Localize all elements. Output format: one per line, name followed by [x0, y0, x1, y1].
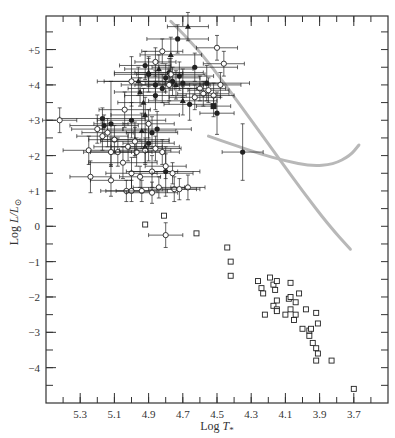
x-tick-label: 4.9 — [142, 408, 156, 420]
open-circle-marker — [221, 61, 226, 66]
open-circle-point — [152, 163, 193, 184]
filled-triangle-marker — [139, 128, 145, 133]
open-square-point — [274, 279, 279, 284]
open-square-marker — [143, 222, 148, 227]
open-circle-marker — [163, 164, 168, 169]
open-square-marker — [329, 358, 334, 363]
open-circle-point — [123, 110, 174, 138]
filled-triangle-marker — [156, 66, 162, 71]
open-circle-point — [203, 51, 244, 76]
open-square-marker — [273, 287, 278, 292]
y-tick-label: +1 — [28, 185, 40, 197]
open-square-marker — [300, 326, 305, 331]
open-square-point — [288, 280, 293, 285]
open-square-point — [283, 312, 288, 317]
open-square-point — [351, 386, 356, 391]
filled-triangle-marker — [168, 52, 174, 57]
filled-circle-point — [200, 92, 234, 134]
filled-circle-marker — [240, 149, 245, 154]
open-square-marker — [288, 307, 293, 312]
filled-circle-marker — [160, 86, 165, 91]
hr-diagram-chart: 5.35.14.94.74.54.34.13.93.7+5+4+3+2+10−1… — [0, 0, 395, 438]
open-square-marker — [161, 213, 166, 218]
open-circle-marker — [129, 79, 134, 84]
open-square-point — [297, 291, 302, 296]
open-circle-point — [120, 166, 161, 187]
open-square-marker — [315, 351, 320, 356]
filled-circle-marker — [143, 63, 148, 68]
open-circle-marker — [149, 190, 154, 195]
filled-triangle-marker — [137, 89, 143, 94]
open-square-marker — [307, 333, 312, 338]
open-square-marker — [315, 321, 320, 326]
open-square-point — [143, 222, 148, 227]
open-square-point — [228, 259, 233, 264]
filled-circle-point — [164, 88, 215, 120]
open-square-point — [291, 317, 296, 322]
filled-triangle-point — [167, 12, 208, 40]
open-square-point — [293, 300, 298, 305]
filled-circle-marker — [187, 102, 192, 107]
open-circle-marker — [108, 149, 113, 154]
x-tick-label: 5.3 — [73, 408, 87, 420]
x-tick-label: 4.3 — [244, 408, 258, 420]
open-circle-marker — [105, 130, 110, 135]
open-square-point — [315, 321, 320, 326]
open-square-marker — [293, 300, 298, 305]
filled-circle-point — [222, 124, 263, 181]
open-square-marker — [261, 291, 266, 296]
open-square-point — [300, 326, 305, 331]
filled-circle-marker — [214, 111, 219, 116]
x-tick-label: 4.7 — [176, 408, 190, 420]
open-circle-marker — [100, 134, 105, 139]
open-square-marker — [291, 317, 296, 322]
filled-triangle-marker — [135, 78, 141, 83]
open-square-point — [288, 307, 293, 312]
open-square-point — [329, 358, 334, 363]
filled-circle-point — [147, 25, 209, 53]
open-square-marker — [225, 245, 230, 250]
open-circle-marker — [170, 171, 175, 176]
open-circle-point — [77, 122, 128, 150]
open-circle-point — [63, 136, 114, 164]
open-circle-marker — [153, 146, 158, 151]
open-square-marker — [274, 279, 279, 284]
filled-triangle-marker — [146, 69, 152, 74]
x-axis-title: Log T* — [200, 419, 234, 435]
y-tick-label: −2 — [28, 291, 40, 303]
filled-triangle-marker — [180, 98, 186, 103]
open-square-marker — [314, 310, 319, 315]
open-square-marker — [310, 340, 315, 345]
open-circle-marker — [95, 126, 100, 131]
open-square-point — [261, 291, 266, 296]
filled-triangle-marker — [185, 23, 191, 28]
open-square-point — [228, 273, 233, 278]
open-circle-marker — [132, 139, 137, 144]
open-circle-marker — [137, 174, 142, 179]
filled-circle-marker — [153, 93, 158, 98]
open-square-point — [194, 231, 199, 236]
open-square-point — [314, 310, 319, 315]
open-square-point — [262, 312, 267, 317]
open-square-point — [293, 312, 298, 317]
open-square-point — [314, 358, 319, 363]
open-square-point — [315, 351, 320, 356]
open-circle-point — [145, 154, 186, 179]
open-square-point — [259, 286, 264, 291]
open-square-marker — [297, 291, 302, 296]
open-square-point — [274, 309, 279, 314]
open-square-marker — [228, 259, 233, 264]
y-tick-label: +2 — [28, 150, 40, 162]
y-axis-title: Log L/L⊙ — [7, 199, 23, 246]
open-square-point — [225, 245, 230, 250]
open-square-point — [161, 213, 166, 218]
open-circle-marker — [192, 95, 197, 100]
open-square-marker — [288, 294, 293, 299]
x-tick-label: 3.7 — [347, 408, 361, 420]
x-tick-label: 4.1 — [279, 408, 293, 420]
open-square-marker — [194, 231, 199, 236]
filled-circle-marker — [175, 36, 180, 41]
open-circle-marker — [206, 88, 211, 93]
open-circle-point — [162, 179, 196, 200]
open-square-marker — [259, 286, 264, 291]
